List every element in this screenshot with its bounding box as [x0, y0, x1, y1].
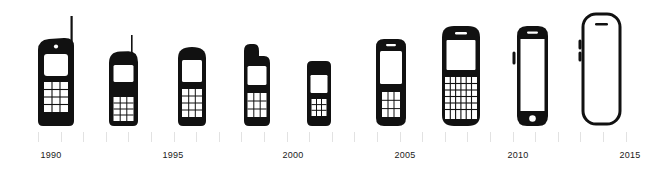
keypad-3x3 [248, 93, 267, 117]
year-label-2000: 2000 [283, 150, 304, 161]
year-label-2015: 2015 [620, 150, 641, 161]
phone-icon-brick-1990 [36, 16, 80, 128]
axis-tick [106, 132, 107, 142]
axis-tick [422, 132, 423, 142]
keypad-4x3 [182, 89, 202, 117]
year-label-2010: 2010 [508, 150, 529, 161]
compact-bar-phone-svg [305, 53, 333, 128]
axis-tick [445, 132, 446, 142]
phone-body [38, 38, 74, 126]
year-label-1990: 1990 [41, 150, 62, 161]
qwerty-keyboard [445, 77, 477, 119]
screen [380, 51, 402, 84]
axis-tick [196, 132, 197, 142]
phone-icon-candybar-1993 [107, 35, 141, 128]
speaker-dot [54, 44, 58, 48]
feature-phone-svg [374, 35, 408, 128]
screen [44, 54, 68, 76]
phone-icon-touchscreen-2012 [511, 23, 549, 128]
earpiece-slot [527, 32, 538, 34]
phone-illustration-row [0, 0, 657, 128]
axis-tick [535, 132, 536, 142]
axis-tick [309, 132, 310, 142]
axis-tick [626, 132, 627, 142]
phone-body-outline [583, 14, 620, 124]
axis-tick [38, 132, 39, 142]
bezel-less-phone-svg [576, 11, 624, 128]
axis-tick [264, 132, 265, 142]
screen [114, 65, 134, 82]
rounded-candybar-svg [176, 41, 208, 128]
screen [447, 40, 476, 70]
axis-tick [400, 132, 401, 142]
phone-icon-featurephone-2005 [374, 35, 408, 128]
earpiece-slot [386, 44, 396, 46]
year-label-2005: 2005 [395, 150, 416, 161]
axis-tick [332, 132, 333, 142]
mobile-phone-evolution-infographic: 199019952000200520102015 [0, 0, 657, 171]
axis-tick [513, 132, 514, 142]
timeline-year-labels: 199019952000200520102015 [0, 150, 657, 164]
year-label-1995: 1995 [163, 150, 184, 161]
axis-tick [287, 132, 288, 142]
screen [248, 66, 267, 85]
axis-tick [151, 132, 152, 142]
axis-tick [241, 132, 242, 142]
screen [311, 75, 328, 93]
home-button [529, 115, 536, 122]
timeline-axis [0, 130, 657, 144]
phone-body [307, 61, 331, 126]
keypad-4x3 [44, 82, 68, 112]
axis-tick [377, 132, 378, 142]
stub-antenna-phone-svg [240, 41, 272, 128]
axis-tick [219, 132, 220, 142]
antenna [131, 35, 133, 53]
axis-tick [603, 132, 604, 142]
keypad-3x3 [382, 92, 400, 117]
phone-icon-compact-2003 [305, 53, 333, 128]
axis-tick [83, 132, 84, 142]
qwerty-smartphone-svg [440, 23, 482, 128]
earpiece-slot [455, 32, 467, 34]
keypad-4x3 [114, 97, 134, 121]
earpiece-slot [595, 23, 608, 26]
brick-phone-svg [36, 16, 80, 128]
candybar-phone-svg [107, 35, 141, 128]
axis-tick [354, 132, 355, 142]
keypad-3x3 [312, 99, 327, 116]
axis-tick [174, 132, 175, 142]
axis-tick [467, 132, 468, 142]
axis-tick [558, 132, 559, 142]
screen [521, 39, 545, 111]
touchscreen-phone-svg [511, 23, 549, 128]
phone-icon-qwerty-2009 [440, 23, 482, 128]
phone-icon-bezelless-2015 [576, 11, 624, 128]
phone-icon-candybar-1997 [176, 41, 208, 128]
axis-tick [580, 132, 581, 142]
axis-tick [61, 132, 62, 142]
axis-tick [490, 132, 491, 142]
axis-tick [128, 132, 129, 142]
phone-icon-stub-2000 [240, 41, 272, 128]
screen [182, 60, 202, 82]
